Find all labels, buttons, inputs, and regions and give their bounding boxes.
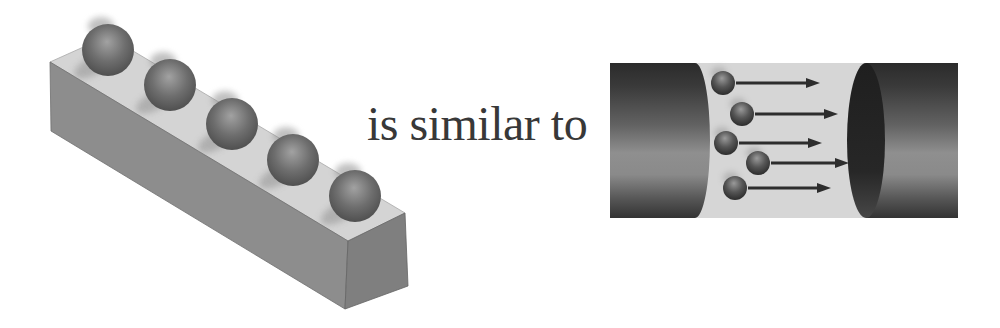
electron bbox=[711, 71, 735, 95]
similarity-text: is similar to bbox=[367, 100, 587, 148]
sphere bbox=[267, 134, 319, 186]
electron bbox=[714, 131, 738, 155]
sphere bbox=[82, 24, 134, 76]
electron bbox=[730, 102, 754, 126]
electron bbox=[723, 176, 747, 200]
figure-stage: is similar to bbox=[0, 0, 1000, 328]
sphere bbox=[206, 98, 258, 150]
sphere bbox=[329, 170, 381, 222]
electron bbox=[746, 151, 770, 175]
electron-drift-figure bbox=[610, 63, 958, 218]
right-wire-end-cap bbox=[847, 63, 885, 218]
left-wire-end bbox=[610, 63, 710, 218]
analogy-diagram bbox=[0, 0, 1000, 328]
bar-with-spheres-figure bbox=[50, 17, 408, 309]
sphere bbox=[144, 59, 196, 111]
